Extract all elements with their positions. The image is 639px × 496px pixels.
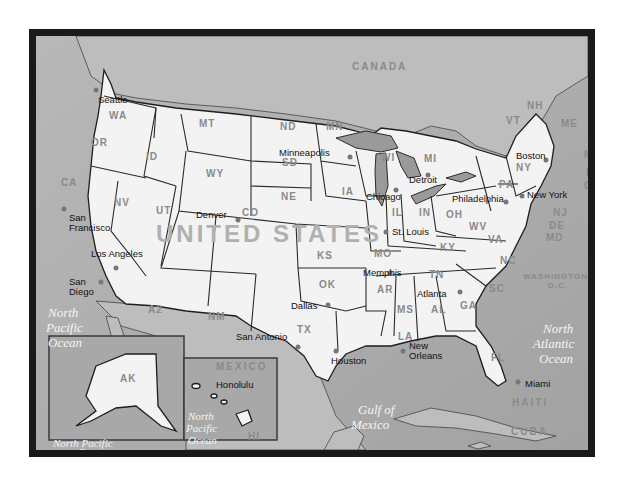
svg-text:Ocean: Ocean	[188, 434, 217, 446]
svg-text:Mexico: Mexico	[350, 417, 390, 432]
state-label-ks: KS	[317, 250, 333, 261]
svg-text:D.C.: D.C.	[548, 281, 568, 290]
ocean-label-hawaii-inset: North Pacific Ocean	[185, 410, 217, 446]
state-label-co: CO	[242, 207, 259, 218]
state-label-tn: TN	[429, 269, 444, 280]
state-label-vt: VT	[506, 115, 521, 126]
state-label-wi: WI	[381, 152, 395, 163]
state-label-nj: NJ	[553, 207, 568, 218]
state-label-ak: AK	[120, 373, 136, 384]
svg-text:North: North	[542, 321, 573, 336]
state-label-wa: WA	[109, 110, 127, 121]
city-label-st-louis: St. Louis	[392, 226, 429, 237]
city-label-miami: Miami	[525, 378, 550, 389]
state-label-nh: NH	[527, 100, 543, 111]
country-label-mexico: MEXICO	[216, 361, 267, 372]
map-canvas: CANADA MEXICO CUBA HAITI JAMAICA UNITED …	[36, 36, 588, 450]
state-label-mt: MT	[199, 118, 215, 129]
ocean-label-north-pacific: North Pacific Ocean	[45, 305, 83, 350]
city-label-detroit: Detroit	[409, 174, 437, 185]
state-label-va: VA	[488, 234, 503, 245]
state-label-nc: NC	[500, 255, 516, 266]
country-label-canada: CANADA	[352, 61, 407, 72]
city-label-boston: Boston	[516, 150, 546, 161]
state-label-ms: MS	[397, 304, 414, 315]
state-label-al: AL	[431, 304, 446, 315]
state-label-me: ME	[561, 118, 578, 129]
svg-text:Pacific: Pacific	[185, 422, 217, 434]
state-label-ar: AR	[377, 284, 393, 295]
state-label-ma: MA	[584, 149, 588, 160]
state-label-de: DE	[549, 220, 565, 231]
state-label-ri: RI	[586, 167, 588, 178]
state-label-ut: UT	[156, 205, 171, 216]
city-label-los-angeles: Los Angeles	[91, 248, 143, 259]
svg-text:Diego: Diego	[69, 286, 94, 297]
state-label-ne: NE	[281, 191, 297, 202]
state-label-nv: NV	[114, 197, 130, 208]
state-label-il: IL	[392, 207, 403, 218]
ocean-label-alaska-inset: North Pacific Ocean	[52, 437, 113, 450]
state-label-ia: IA	[342, 186, 354, 197]
state-label-or: OR	[91, 137, 108, 148]
svg-text:Atlantic: Atlantic	[532, 336, 574, 351]
state-label-ok: OK	[319, 279, 336, 290]
city-label-new-york: New York	[527, 189, 567, 200]
city-label-chicago: Chicago	[366, 191, 401, 202]
city-label-atlanta: Atlanta	[417, 288, 447, 299]
city-label-philadelphia: Philadelphia	[452, 193, 504, 204]
state-label-mi: MI	[424, 153, 437, 164]
city-label-houston: Houston	[331, 355, 366, 366]
svg-text:North: North	[47, 305, 78, 320]
state-label-in: IN	[419, 207, 431, 218]
state-label-wv: WV	[469, 221, 487, 232]
city-label-san-antonio: San Antonio	[236, 331, 287, 342]
us-map: CANADA MEXICO CUBA HAITI JAMAICA UNITED …	[29, 29, 595, 457]
state-label-nd: ND	[280, 121, 296, 132]
state-label-sd: SD	[282, 157, 298, 168]
country-label-haiti: HAITI	[512, 397, 548, 408]
svg-text:WASHINGTON: WASHINGTON	[523, 272, 588, 281]
state-label-pa: PA	[499, 179, 514, 190]
state-label-wy: WY	[206, 168, 224, 179]
state-label-tx: TX	[297, 324, 312, 335]
state-label-ky: KY	[440, 242, 456, 253]
country-title-united-states: UNITED STATES	[156, 220, 382, 247]
state-label-ca: CA	[61, 177, 77, 188]
state-label-fl: FL	[491, 352, 505, 363]
state-label-az: A2	[148, 304, 163, 315]
svg-text:Ocean: Ocean	[78, 446, 107, 450]
state-label-mo: MO	[374, 248, 392, 259]
city-label-honolulu: Honolulu	[216, 379, 254, 390]
city-label-seattle: Seattle	[98, 94, 128, 105]
state-label-ct: CT	[584, 180, 588, 191]
alaska-inset	[49, 336, 184, 440]
city-label-denver: Denver	[196, 209, 227, 220]
svg-text:North: North	[187, 410, 214, 422]
state-label-md: MD	[546, 232, 564, 243]
svg-text:Orleans: Orleans	[409, 350, 443, 361]
svg-text:Ocean: Ocean	[539, 351, 573, 366]
city-label-minneapolis: Minneapolis	[279, 147, 330, 158]
svg-text:Gulf of: Gulf of	[358, 402, 397, 417]
state-label-ga: GA	[460, 300, 477, 311]
city-label-memphis: Memphis	[363, 267, 402, 278]
state-label-mn: MN	[326, 121, 344, 132]
svg-text:Ocean: Ocean	[48, 335, 82, 350]
state-label-ny: NY	[516, 162, 532, 173]
state-label-sc: SC	[489, 283, 505, 294]
state-label-nm: NM	[208, 311, 226, 322]
state-label-oh: OH	[446, 209, 463, 220]
state-label-hi: HI	[248, 431, 260, 442]
svg-text:Pacific: Pacific	[45, 320, 83, 335]
svg-text:Francisco: Francisco	[69, 222, 110, 233]
country-label-cuba: CUBA	[511, 426, 548, 437]
state-label-id: ID	[146, 151, 158, 162]
city-label-dallas: Dallas	[291, 300, 318, 311]
